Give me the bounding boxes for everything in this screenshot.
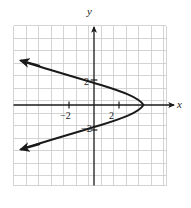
parabola-arrow-lower-left <box>21 144 41 150</box>
x-axis-label: x <box>177 99 182 110</box>
coordinate-plane <box>0 0 191 208</box>
y-axis-tick-label-negative-two: −2 <box>81 124 92 134</box>
y-axis-tick-label-positive-two: 2 <box>84 77 89 87</box>
x-axis-tick-label-positive-two: 2 <box>109 111 114 121</box>
graph-figure: y x −2 2 2 −2 <box>0 0 191 208</box>
y-axis-label: y <box>87 6 92 17</box>
x-axis-tick-label-negative-two: −2 <box>60 111 71 121</box>
